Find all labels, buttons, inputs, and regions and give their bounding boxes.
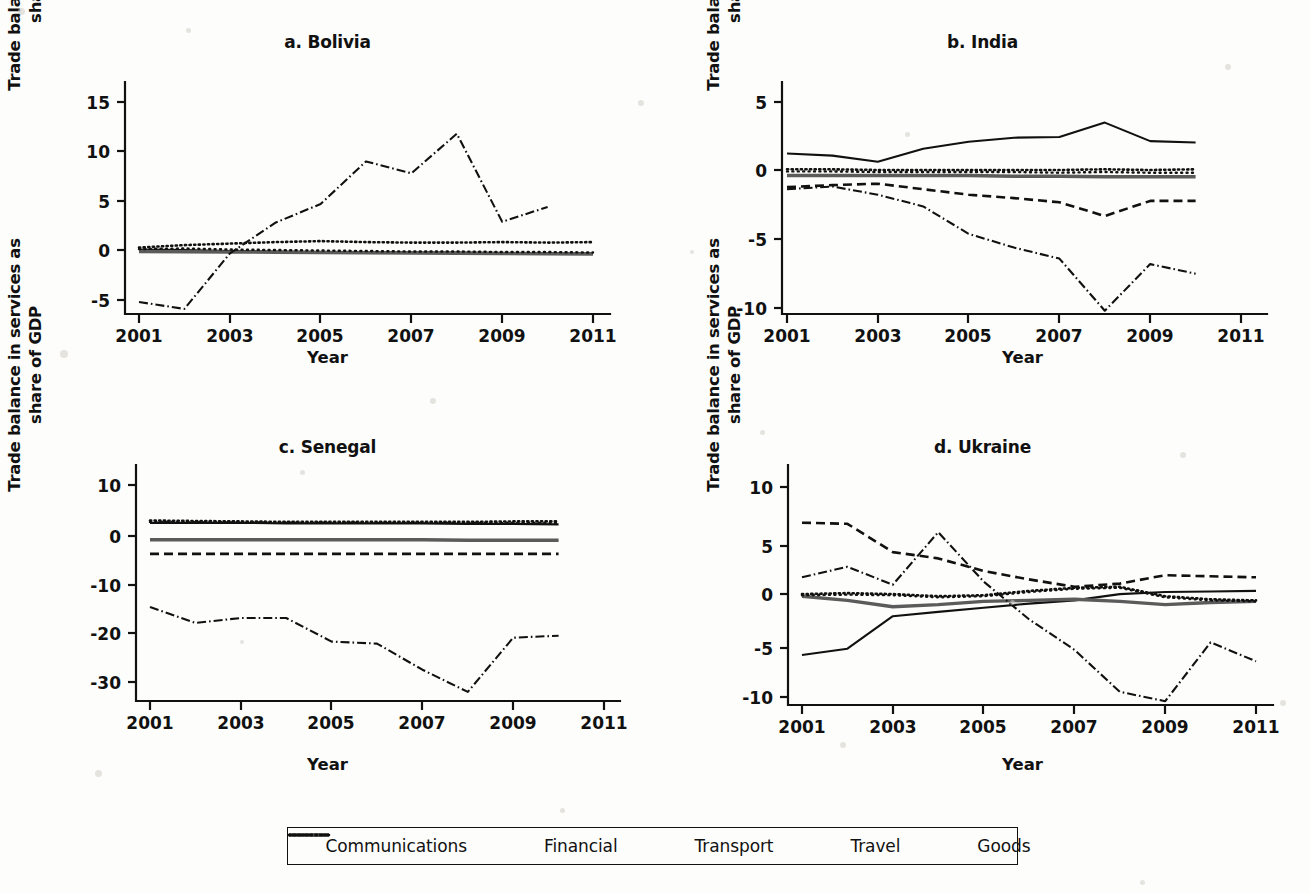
y-tick-label: 0 (755, 161, 767, 181)
x-tick-label: 2011 (1217, 326, 1264, 346)
scan-speck (905, 132, 910, 137)
dash-dot-line-icon (926, 839, 968, 853)
x-tick-label: 2005 (296, 326, 343, 346)
scan-speck (95, 770, 102, 777)
x-tick-label: 2009 (1126, 326, 1173, 346)
y-tick-label: -10 (90, 576, 121, 596)
scan-speck (240, 640, 244, 644)
series-line-goods (802, 532, 1256, 701)
series-line-financial (150, 540, 559, 541)
y-tick-label: -10 (742, 688, 773, 708)
y-tick-label: -30 (90, 673, 121, 693)
x-tick-label: 2001 (778, 717, 825, 737)
series-group-bolivia (139, 134, 593, 309)
scan-speck (1140, 880, 1145, 885)
x-tick-label: 2005 (944, 326, 991, 346)
axis-frame (125, 82, 610, 314)
x-axis-label-ukraine: Year (695, 755, 1310, 774)
y-tick-label: 10 (97, 476, 121, 496)
legend-label: Goods (977, 836, 1030, 856)
x-tick-label: 2009 (1141, 717, 1188, 737)
legend-item-transport[interactable]: Transport (644, 836, 774, 856)
legend-item-financial[interactable]: Financial (493, 836, 618, 856)
plot-svg-india: 5 0 -5 -10 2001 2003 2005 2007 2009 2011 (655, 18, 1310, 358)
axes-india: 5 0 -5 -10 2001 2003 2005 2007 2009 2011 (736, 82, 1267, 346)
x-tick-label: 2003 (217, 713, 264, 733)
x-axis-label-india: Year (695, 348, 1310, 367)
y-tick-label: 0 (98, 241, 110, 261)
plot-svg-ukraine: 10 5 0 -5 -10 2001 2003 2005 2007 2009 2… (655, 423, 1310, 763)
scan-speck (300, 470, 305, 475)
x-tick-label: 2011 (580, 713, 627, 733)
x-tick-label: 2003 (869, 717, 916, 737)
legend-item-travel[interactable]: Travel (799, 836, 900, 856)
scan-speck (638, 100, 644, 106)
series-line-transport-dash (802, 523, 1256, 587)
x-tick-label: 2005 (959, 717, 1006, 737)
y-tick-label: -5 (91, 291, 110, 311)
scan-speck (1280, 700, 1286, 706)
y-tick-label: 10 (749, 478, 773, 498)
axis-frame (136, 465, 620, 701)
x-tick-label: 2005 (307, 713, 354, 733)
y-tick-label: 5 (755, 93, 767, 113)
x-tick-label: 2007 (398, 713, 445, 733)
plot-svg-bolivia: 15 10 5 0 -5 2001 2003 2005 2007 2009 20… (0, 18, 655, 358)
scan-speck (560, 808, 565, 813)
legend-label: Transport (695, 836, 774, 856)
series-line-transport (787, 169, 1196, 170)
dotted-line-icon (644, 839, 686, 853)
chart-legend: CommunicationsFinancialTransportTravelGo… (287, 827, 1018, 865)
x-tick-label: 2009 (489, 713, 536, 733)
chart-panel-bolivia: a. Bolivia Trade balance in services ass… (0, 18, 655, 428)
x-tick-label: 2011 (1232, 717, 1279, 737)
y-tick-label: -5 (754, 639, 773, 659)
x-tick-label: 2001 (126, 713, 173, 733)
y-tick-label: -5 (748, 230, 767, 250)
y-tick-label: -20 (90, 624, 121, 644)
series-line-financial (787, 176, 1196, 177)
legend-label: Travel (850, 836, 900, 856)
series-line-transport (802, 587, 1256, 601)
series-line-goods (139, 134, 548, 309)
chart-panel-ukraine: d. Ukraine Trade balance in services ass… (655, 423, 1310, 833)
x-tick-label: 2003 (854, 326, 901, 346)
axis-frame (788, 465, 1273, 705)
y-tick-label: 0 (761, 585, 773, 605)
scan-speck (430, 398, 436, 404)
axes-senegal: 10 0 -10 -20 -30 2001 2003 2005 2007 200… (90, 465, 627, 733)
scan-speck (60, 350, 68, 358)
series-line-goods (150, 607, 559, 692)
series-group-ukraine (802, 523, 1256, 702)
series-line-transport-dash (787, 184, 1196, 216)
x-tick-label: 2011 (569, 326, 616, 346)
scan-speck (840, 742, 846, 748)
y-tick-label: 10 (86, 142, 110, 162)
axes-bolivia: 15 10 5 0 -5 2001 2003 2005 2007 2009 20… (86, 82, 616, 346)
scan-speck (760, 430, 765, 435)
x-tick-label: 2007 (1050, 717, 1097, 737)
thick-line-icon (493, 839, 535, 853)
figure-trade-balance-services: a. Bolivia Trade balance in services ass… (0, 0, 1310, 893)
scan-speck (1180, 452, 1186, 458)
y-tick-label: 5 (761, 537, 773, 557)
series-line-travel (787, 171, 1196, 172)
y-tick-label: 15 (86, 93, 110, 113)
x-axis-label-bolivia: Year (0, 348, 655, 367)
series-line-travel (150, 522, 559, 523)
x-tick-label: 2007 (387, 326, 434, 346)
scan-speck (690, 250, 694, 254)
series-group-senegal (150, 521, 559, 692)
legend-label: Financial (544, 836, 618, 856)
chart-panel-india: b. India Trade balance in services assha… (655, 18, 1310, 428)
scan-speck (18, 8, 25, 15)
series-group-india (787, 123, 1196, 311)
scan-speck (1010, 600, 1015, 605)
series-line-transport (139, 241, 593, 247)
scan-speck (1225, 64, 1231, 70)
legend-label: Communications (326, 836, 467, 856)
legend-item-goods[interactable]: Goods (926, 836, 1030, 856)
x-tick-label: 2007 (1035, 326, 1082, 346)
series-line-communications (787, 123, 1196, 162)
scan-speck (186, 28, 191, 33)
